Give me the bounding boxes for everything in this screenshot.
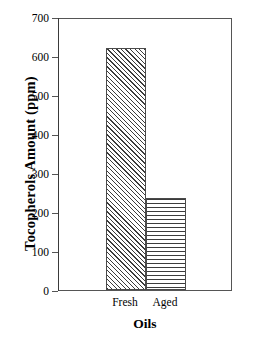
y-axis-line xyxy=(58,18,59,291)
y-tick-mark xyxy=(52,291,58,292)
y-tick-label: 500 xyxy=(32,90,49,102)
y-tick-mark xyxy=(52,96,58,97)
bar-fresh xyxy=(106,48,146,290)
y-tick-label: 300 xyxy=(32,168,49,180)
x-axis-title: Oils xyxy=(58,316,232,332)
y-tick-label: 600 xyxy=(32,51,49,63)
y-tick-label: 400 xyxy=(32,129,49,141)
bar-chart: Tocopherols Amount (ppm) 010020030040050… xyxy=(0,0,266,343)
y-tick-label: 700 xyxy=(32,12,49,24)
y-tick-mark xyxy=(52,135,58,136)
y-tick-mark xyxy=(52,213,58,214)
y-tick-label: 0 xyxy=(43,285,49,297)
y-tick-mark xyxy=(52,252,58,253)
y-tick-label: 200 xyxy=(32,207,49,219)
bar-aged xyxy=(146,198,186,290)
y-tick-mark xyxy=(52,174,58,175)
y-tick-mark xyxy=(52,57,58,58)
x-category-label-aged: Aged xyxy=(135,296,195,308)
y-tick-mark xyxy=(52,18,58,19)
plot-area xyxy=(58,18,232,291)
y-tick-label: 100 xyxy=(32,246,49,258)
